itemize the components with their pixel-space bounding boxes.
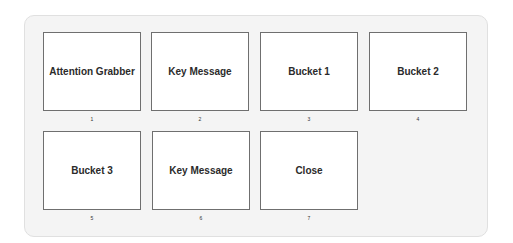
slide-6: Key Message <box>152 131 250 210</box>
slide-number: 5 <box>43 215 141 221</box>
slide-2: Key Message <box>151 32 249 111</box>
slide-title: Bucket 2 <box>397 66 439 77</box>
slide-title: Attention Grabber <box>49 66 135 77</box>
slide-number: 3 <box>260 116 358 122</box>
slide-title: Bucket 1 <box>288 66 330 77</box>
slide-3: Bucket 1 <box>260 32 358 111</box>
slide-5: Bucket 3 <box>43 131 141 210</box>
slide-title: Key Message <box>169 165 232 176</box>
slide-1: Attention Grabber <box>43 32 141 111</box>
slide-number: 6 <box>152 215 250 221</box>
slide-number: 7 <box>260 215 358 221</box>
slide-title: Close <box>295 165 322 176</box>
slide-number: 4 <box>369 116 467 122</box>
slide-title: Key Message <box>168 66 231 77</box>
slide-number: 2 <box>151 116 249 122</box>
slide-number: 1 <box>43 116 141 122</box>
slide-title: Bucket 3 <box>71 165 113 176</box>
slide-4: Bucket 2 <box>369 32 467 111</box>
slide-7: Close <box>260 131 358 210</box>
